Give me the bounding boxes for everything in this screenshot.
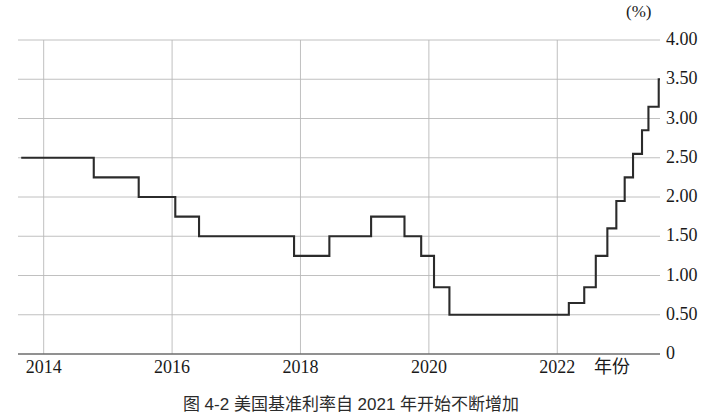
y-axis-tick-label: 4.00 [666,29,698,50]
chart-plot [0,0,702,412]
x-axis-tick-label: 2020 [394,357,464,378]
x-axis-title: 年份 [594,352,630,378]
y-axis-tick-label: 1.00 [666,265,698,286]
x-axis-tick-label: 2022 [522,357,592,378]
y-axis-tick-label: 2.00 [666,186,698,207]
figure-caption: 图 4-2 美国基准利率自 2021 年开始不断增加 [0,390,702,412]
x-axis-tick-label: 2018 [265,357,335,378]
y-axis-tick-label: 3.50 [666,68,698,89]
y-axis-tick-label: 0 [666,343,675,364]
y-axis-tick-label: 2.50 [666,147,698,168]
y-axis-tick-label: 0.50 [666,304,698,325]
y-axis-tick-label: 3.00 [666,108,698,129]
x-axis-tick-label: 2016 [137,357,207,378]
y-axis-tick-label: 1.50 [666,225,698,246]
figure-container: (%) 00.501.001.502.002.503.003.504.00 20… [0,0,702,412]
y-axis-unit-label: (%) [626,2,651,22]
x-axis-tick-label: 2014 [9,357,79,378]
